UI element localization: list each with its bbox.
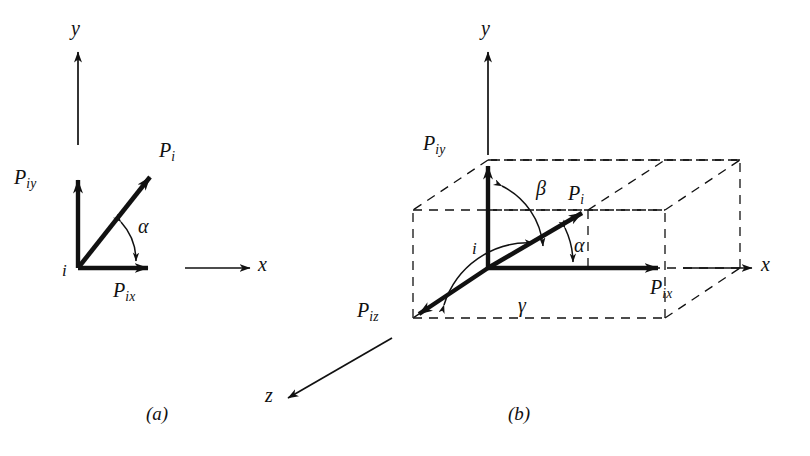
- panel-b-piz-label: Piz: [357, 300, 379, 323]
- box-top-right-edge: [665, 160, 740, 210]
- box-bottom-right-edge: [665, 268, 740, 318]
- panel-b-z-axis-label: z: [265, 385, 273, 405]
- figure-drawing-canvas: [0, 0, 810, 456]
- panel-a-alpha-arc: [121, 222, 136, 261]
- panel-b-pi-label-subscript: i: [580, 192, 584, 207]
- panel-b-x-axis-label: x: [761, 254, 770, 274]
- panel-b-y-axis-label: y: [481, 18, 490, 38]
- panel-a-y-axis-label: y: [71, 18, 80, 38]
- panel-a-pi-label-subscript: i: [171, 149, 175, 164]
- box-top-left-edge: [413, 160, 488, 210]
- panel-b-gamma-label: γ: [518, 295, 526, 315]
- panel-b-caption: (b): [508, 404, 530, 423]
- panel-a-pix-label: Pix: [113, 280, 135, 303]
- panel-a-pi-label: Pi: [159, 140, 175, 163]
- panel-b-pix-label: Pix: [650, 277, 672, 300]
- panel-b-piz-vector: [419, 268, 488, 314]
- panel-b-drawing: [288, 52, 752, 398]
- panel-a-x-axis-label: x: [258, 254, 267, 274]
- panel-a-piy-label-base: P: [14, 166, 26, 188]
- panel-b-piy-label: Piy: [423, 133, 445, 156]
- panel-a-pi-label-base: P: [159, 139, 171, 161]
- panel-a-piy-label-subscript: iy: [26, 176, 36, 191]
- figure-container: y x i Pi Piy Pix α (a) y x z i Pi Piy Pi…: [0, 0, 810, 456]
- panel-b-pix-label-base: P: [650, 276, 662, 298]
- panel-b-origin-label: i: [472, 240, 477, 257]
- panel-a-alpha-label: α: [138, 216, 149, 236]
- projector-pi-diagonal: [588, 160, 665, 210]
- panel-a-piy-label: Piy: [14, 167, 36, 190]
- panel-b-beta-label: β: [536, 178, 546, 198]
- panel-b-pi-label: Pi: [568, 183, 584, 206]
- panel-b-z-axis-line: [288, 338, 392, 398]
- panel-b-pix-label-subscript: ix: [662, 286, 672, 301]
- panel-b-pi-label-base: P: [568, 182, 580, 204]
- panel-a-pix-label-subscript: ix: [125, 289, 135, 304]
- panel-b-piy-label-base: P: [423, 132, 435, 154]
- panel-b-piy-label-subscript: iy: [435, 142, 445, 157]
- panel-b-pi-vector: [488, 213, 582, 268]
- panel-b-piz-label-base: P: [357, 299, 369, 321]
- panel-a-pix-label-base: P: [113, 279, 125, 301]
- panel-a-caption: (a): [146, 404, 168, 423]
- panel-b-alpha-arc: [565, 228, 573, 262]
- panel-a-origin-label: i: [62, 262, 67, 279]
- panel-b-piz-label-subscript: iz: [369, 309, 378, 324]
- panel-b-alpha-label: α: [574, 235, 585, 255]
